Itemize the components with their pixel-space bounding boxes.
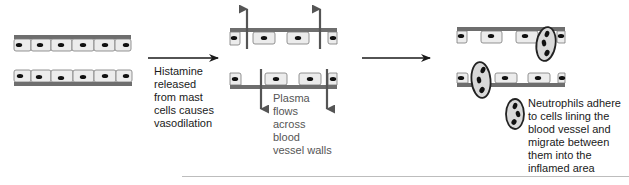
caption-line: flows [273,105,332,118]
caption-line: vasodilation [154,117,214,130]
caption-line: blood [273,131,332,144]
endothelial-row-bottom [14,70,132,82]
histamine-caption: Histamine released from mast cells cause… [154,65,214,130]
caption-line: blood vessel and [528,123,621,136]
caption-line: Neutrophils adhere [528,97,621,110]
neutrophil-migrated [506,99,524,129]
caption-line: across [273,118,332,131]
footer-divider [182,176,629,177]
caption-line: from mast [154,91,214,104]
plasma-caption: Plasma flows across blood vessel walls [273,92,332,157]
caption-line: cells causes [154,104,214,117]
caption-line: inflamed area [528,162,621,175]
caption-line: to cells lining the [528,110,621,123]
caption-line: released [154,78,214,91]
caption-line: Histamine [154,65,214,78]
caption-line: vessel walls [273,144,332,157]
vessel-wall-top [14,35,131,39]
caption-line: migrate between [528,136,621,149]
caption-line: Plasma [273,92,332,105]
vessel-wall-bottom [230,85,337,89]
vessel-wall-bottom [14,82,132,86]
endothelial-row-top [14,39,131,51]
endothelial-row-bottom [230,73,337,85]
stage-1-normal-vessel [14,35,132,86]
caption-line: them into the [528,149,621,162]
neutrophil-caption: Neutrophils adhere to cells lining the b… [528,97,621,175]
neutrophil-bottom-wall [470,61,492,99]
